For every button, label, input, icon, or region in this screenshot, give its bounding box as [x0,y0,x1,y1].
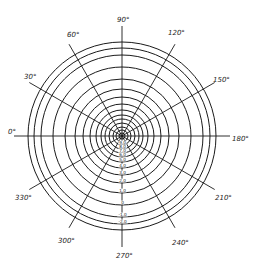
angle-label-120: 120° [168,29,185,37]
ring-label: -2.0 [118,219,127,224]
ring-label: 5.0 [119,157,126,162]
angle-label-30: 30° [24,73,36,81]
angle-label-330: 330° [15,194,32,202]
angle-label-60: 60° [67,31,79,39]
ring-label: 4.0 [119,163,126,168]
angle-label-180: 180° [232,135,249,143]
angle-label-300: 300° [58,237,75,245]
ring-label: 0 [121,200,124,205]
angle-label-210: 210° [215,194,232,202]
ring-label: 2.0 [119,178,126,183]
polar-grid-diagram: 9.08.07.06.05.04.03.02.01.00-1.0-2.0 0°3… [0,0,257,268]
angle-label-240: 240° [172,239,189,247]
angle-label-90: 90° [117,16,129,24]
ring-value-labels: 9.08.07.06.05.04.03.02.01.00-1.0-2.0 [117,140,128,224]
angle-label-150: 150° [213,76,230,84]
angle-label-270: 270° [116,252,133,260]
ring-label: -1.0 [118,212,127,217]
angle-label-0: 0° [8,128,16,136]
ring-label: 3.0 [119,170,126,175]
ring-label: 1.0 [119,188,126,193]
